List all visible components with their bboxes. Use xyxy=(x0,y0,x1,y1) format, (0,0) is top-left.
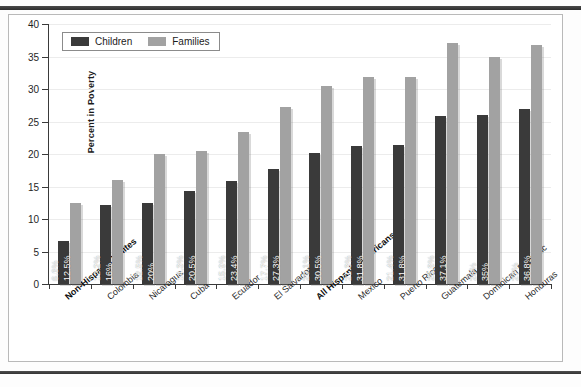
bar-body xyxy=(489,57,500,285)
page-rule-top xyxy=(0,6,581,10)
y-tick-label: 35 xyxy=(28,51,39,62)
bar-body xyxy=(196,151,207,284)
bar-value-label: 16% xyxy=(104,263,114,281)
bar-body xyxy=(70,203,81,284)
bar-value-label: 27% xyxy=(510,263,520,281)
y-tick: 30 xyxy=(42,89,48,90)
bar-group: 20.1%30.5% xyxy=(309,24,332,284)
bar-group: 17.7%27.3% xyxy=(268,24,291,284)
bar-value-label: 31.8% xyxy=(355,255,365,281)
legend-swatch-families xyxy=(148,37,166,46)
bar-families[interactable]: 20.5% xyxy=(196,151,207,284)
bar-value-label: 27.3% xyxy=(271,255,281,281)
bar-families[interactable]: 27.3% xyxy=(280,107,291,284)
y-tick: 25 xyxy=(42,122,48,123)
bar-families[interactable]: 20% xyxy=(154,154,165,284)
y-tick-label: 15 xyxy=(28,181,39,192)
bar-families[interactable]: 16% xyxy=(112,180,123,284)
bar-value-label: 23.4% xyxy=(229,255,239,281)
x-tick xyxy=(49,284,50,289)
bar-families[interactable]: 36.8% xyxy=(531,45,542,284)
bar-value-label: 6.6% xyxy=(50,260,60,281)
legend-item-children[interactable]: Children xyxy=(71,36,132,47)
chart-page: Percent in Poverty 0510152025303540 Chil… xyxy=(0,0,581,387)
bar-families[interactable]: 35% xyxy=(489,57,500,285)
y-tick-label: 40 xyxy=(28,19,39,30)
bar-value-label: 25.8% xyxy=(426,255,436,281)
bar-body xyxy=(405,77,416,284)
bar-group: 14.3%20.5% xyxy=(184,24,207,284)
bar-group: 12.5%20% xyxy=(142,24,165,284)
bar-children[interactable]: 26% xyxy=(477,115,488,284)
y-tick: 15 xyxy=(42,187,48,188)
x-tick xyxy=(426,284,427,289)
bar-body xyxy=(321,86,332,284)
bar-body xyxy=(280,107,291,284)
bar-value-label: 30.5% xyxy=(313,255,323,281)
x-tick xyxy=(342,284,343,289)
bar-value-label: 37.1% xyxy=(438,255,448,281)
legend-swatch-children xyxy=(71,37,89,46)
bar-group: 27%36.8% xyxy=(519,24,542,284)
bar-families[interactable]: 12.5% xyxy=(70,203,81,284)
page-rule-bottom xyxy=(0,371,581,374)
bar-value-label: 14.3% xyxy=(175,255,185,281)
bar-group: 6.6%12.5% xyxy=(58,24,81,284)
x-tick xyxy=(258,284,259,289)
bar-body xyxy=(447,43,458,284)
y-tick: 0 xyxy=(42,284,48,285)
bar-value-label: 21.4% xyxy=(385,255,395,281)
bar-group: 12.2%16% xyxy=(100,24,123,284)
bar-group: 21.3%31.8% xyxy=(351,24,374,284)
bar-body xyxy=(531,45,542,284)
x-tick xyxy=(467,284,468,289)
x-tick xyxy=(509,284,510,289)
y-tick: 35 xyxy=(42,57,48,58)
y-tick-label: 25 xyxy=(28,116,39,127)
bar-families[interactable]: 30.5% xyxy=(321,86,332,284)
x-tick xyxy=(300,284,301,289)
x-tick xyxy=(551,284,552,289)
legend-item-families[interactable]: Families xyxy=(148,36,209,47)
x-tick xyxy=(133,284,134,289)
y-tick-label: 20 xyxy=(28,149,39,160)
chart-legend: Children Families xyxy=(62,32,220,51)
bar-group: 21.4%31.8% xyxy=(393,24,416,284)
legend-label-children: Children xyxy=(95,36,132,47)
bar-group: 26%35% xyxy=(477,24,500,284)
bar-value-label: 21.3% xyxy=(343,255,353,281)
bar-value-label: 20.5% xyxy=(187,255,197,281)
chart-figure: Percent in Poverty 0510152025303540 Chil… xyxy=(8,14,563,362)
bar-value-label: 17.7% xyxy=(259,255,269,281)
bar-value-label: 12.5% xyxy=(134,255,144,281)
bar-value-label: 20.1% xyxy=(301,255,311,281)
bar-value-label: 31.8% xyxy=(397,255,407,281)
x-tick xyxy=(91,284,92,289)
bar-value-label: 15.9% xyxy=(217,255,227,281)
bar-families[interactable]: 31.8% xyxy=(363,77,374,284)
bar-value-label: 35% xyxy=(480,263,490,281)
x-tick xyxy=(216,284,217,289)
y-tick: 5 xyxy=(42,252,48,253)
bar-value-label: 12.2% xyxy=(92,255,102,281)
y-tick-label: 0 xyxy=(33,279,39,290)
bar-families[interactable]: 23.4% xyxy=(238,132,249,284)
bar-body xyxy=(238,132,249,284)
bar-value-label: 20% xyxy=(146,263,156,281)
plot-area: 0510152025303540 Children Families 6.6%1… xyxy=(48,24,551,284)
legend-label-families: Families xyxy=(172,36,209,47)
bar-value-label: 36.8% xyxy=(522,255,532,281)
y-tick-label: 30 xyxy=(28,84,39,95)
bar-value-label: 26% xyxy=(468,263,478,281)
y-tick: 10 xyxy=(42,219,48,220)
bar-group: 25.8%37.1% xyxy=(435,24,458,284)
y-tick-label: 5 xyxy=(33,246,39,257)
bar-value-label: 12.5% xyxy=(62,255,72,281)
bar-body xyxy=(477,115,488,284)
bar-body xyxy=(363,77,374,284)
x-tick xyxy=(175,284,176,289)
y-tick: 20 xyxy=(42,154,48,155)
bar-families[interactable]: 31.8% xyxy=(405,77,416,284)
x-tick xyxy=(384,284,385,289)
bar-families[interactable]: 37.1% xyxy=(447,43,458,284)
